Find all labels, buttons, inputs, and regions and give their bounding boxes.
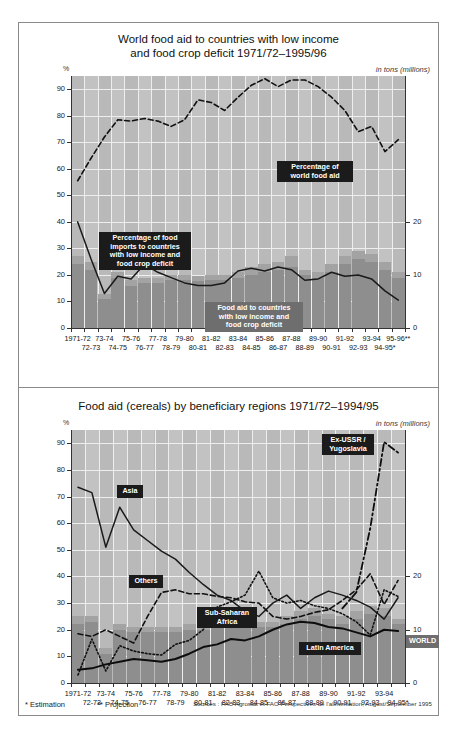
callout-food-aid-countries: Food aid to countries with low income an… (205, 302, 303, 332)
x-axis-tick-mark (155, 683, 156, 687)
y-axis-tick-label: 90 (43, 438, 65, 447)
top-chart-unit-left: % (63, 65, 69, 72)
y-axis-tick-label: 20 (43, 270, 65, 279)
top-chart-y2-axis-line (405, 76, 406, 328)
x-axis-tick-mark (238, 683, 239, 687)
x-axis-tick-mark (165, 328, 166, 332)
y2-axis-tick-label: 10 (413, 625, 435, 634)
footnote-estimation: * Estimation (25, 700, 65, 709)
y-axis-tick-label: 30 (43, 243, 65, 252)
x-axis-tick-mark (141, 683, 142, 687)
y-axis-tick-label: 40 (43, 217, 65, 226)
x-axis-tick-mark (391, 683, 392, 687)
x-axis-tick-mark (392, 328, 393, 332)
top-chart-title: World food aid to countries with low inc… (19, 23, 438, 60)
y-axis-tick-label: 90 (43, 84, 65, 93)
x-axis-tick-mark (71, 328, 72, 332)
x-axis-tick-mark (168, 683, 169, 687)
figure-footer: * Estimation ** Projection Sources : FAO… (19, 700, 438, 712)
x-axis-tick-mark (99, 683, 100, 687)
top-chart-plot-area (71, 76, 405, 328)
x-axis-tick-mark (266, 683, 267, 687)
callout-percentage-world-food-aid: Percentage of world food aid (277, 161, 353, 182)
y-axis-tick-label: 50 (43, 545, 65, 554)
x-axis-tick-mark (280, 683, 281, 687)
x-axis-tick-mark (224, 683, 225, 687)
y-axis-tick-label: 40 (43, 571, 65, 580)
y2-axis-tick-mark (406, 576, 410, 577)
x-axis-tick-mark (325, 328, 326, 332)
y-axis-tick-label: 80 (43, 465, 65, 474)
y-axis-tick-label: 20 (43, 625, 65, 634)
x-axis-tick-mark (335, 683, 336, 687)
callout-ex-ussr-yugoslavia: Ex-USSR / Yugoslavia (322, 434, 374, 455)
x-axis-tick-mark (191, 328, 192, 332)
x-axis-tick-mark (405, 683, 406, 687)
y2-axis-tick-mark (406, 630, 410, 631)
x-axis-tick-mark (322, 683, 323, 687)
x-axis-tick-mark (378, 328, 379, 332)
bottom-chart-x-axis-line (71, 683, 407, 684)
x-axis-tick-mark (85, 683, 86, 687)
y2-axis-tick-label: 0 (413, 678, 435, 687)
callout-latin-america: Latin America (299, 642, 361, 655)
x-axis-tick-mark (84, 328, 85, 332)
x-axis-tick-mark (349, 683, 350, 687)
top-chart-panel: World food aid to countries with low inc… (19, 23, 438, 359)
x-axis-tick-mark (352, 328, 353, 332)
x-axis-tick-mark (196, 683, 197, 687)
y-axis-tick-label: 80 (43, 111, 65, 120)
x-axis-tick-mark (151, 328, 152, 332)
y-axis-tick-label: 10 (43, 296, 65, 305)
top-chart-title-line1: World food aid to countries with low inc… (19, 33, 438, 47)
footnote-projection: ** Projection (97, 700, 138, 709)
x-axis-tick-mark (98, 328, 99, 332)
x-axis-tick-mark (377, 683, 378, 687)
x-axis-label: 95-96** (374, 334, 422, 343)
y2-axis-tick-label: 20 (413, 571, 435, 580)
x-axis-tick-mark (71, 683, 72, 687)
x-axis-label: 93-94 (360, 689, 408, 698)
x-axis-tick-mark (178, 328, 179, 332)
y2-axis-tick-label: 10 (413, 270, 435, 279)
x-axis-tick-mark (210, 683, 211, 687)
y-axis-tick-label: 70 (43, 137, 65, 146)
x-axis-tick-mark (252, 683, 253, 687)
y2-axis-tick-mark (406, 222, 410, 223)
x-axis-tick-mark (338, 328, 339, 332)
x-axis-tick-mark (363, 683, 364, 687)
bottom-chart-y-axis-line (71, 430, 72, 683)
x-axis-tick-mark (111, 328, 112, 332)
callout-others: Others (129, 575, 163, 588)
callout-percentage-food-imports: Percentage of food imports to countries … (99, 232, 191, 270)
x-axis-label: 94-95* (361, 343, 409, 352)
callout-sub-saharan-africa: Sub-Saharan Africa (197, 607, 257, 628)
x-axis-tick-mark (311, 328, 312, 332)
x-axis-tick-mark (294, 683, 295, 687)
bottom-chart-title: Food aid (cereals) by beneficiary region… (19, 388, 438, 414)
callout-asia: Asia (117, 485, 143, 498)
y2-axis-tick-label: 20 (413, 217, 435, 226)
x-axis-tick-mark (127, 683, 128, 687)
y2-axis-tick-mark (406, 275, 410, 276)
y-axis-tick-label: 60 (43, 518, 65, 527)
x-axis-tick-mark (365, 328, 366, 332)
series-line (342, 442, 398, 608)
top-chart-title-line2: and food crop deficit 1971/72–1995/96 (19, 47, 438, 61)
x-axis-tick-mark (182, 683, 183, 687)
top-chart-y-axis-line (71, 76, 72, 328)
y-axis-tick-label: 50 (43, 190, 65, 199)
x-axis-tick-mark (308, 683, 309, 687)
y-axis-tick-label: 30 (43, 598, 65, 607)
top-chart-unit-right: in tons (millions) (376, 65, 430, 74)
bottom-chart-unit-left: % (63, 419, 69, 426)
y-axis-tick-label: 70 (43, 492, 65, 501)
bottom-chart-unit-right: in tons (millions) (376, 419, 430, 428)
y-axis-tick-label: 0 (43, 678, 65, 687)
x-axis-tick-mark (405, 328, 406, 332)
callout-world: WORLD (406, 635, 439, 648)
x-axis-tick-mark (113, 683, 114, 687)
bottom-chart-panel: Food aid (cereals) by beneficiary region… (19, 388, 438, 717)
y-axis-tick-label: 0 (43, 323, 65, 332)
figure-page: World food aid to countries with low inc… (18, 22, 439, 716)
